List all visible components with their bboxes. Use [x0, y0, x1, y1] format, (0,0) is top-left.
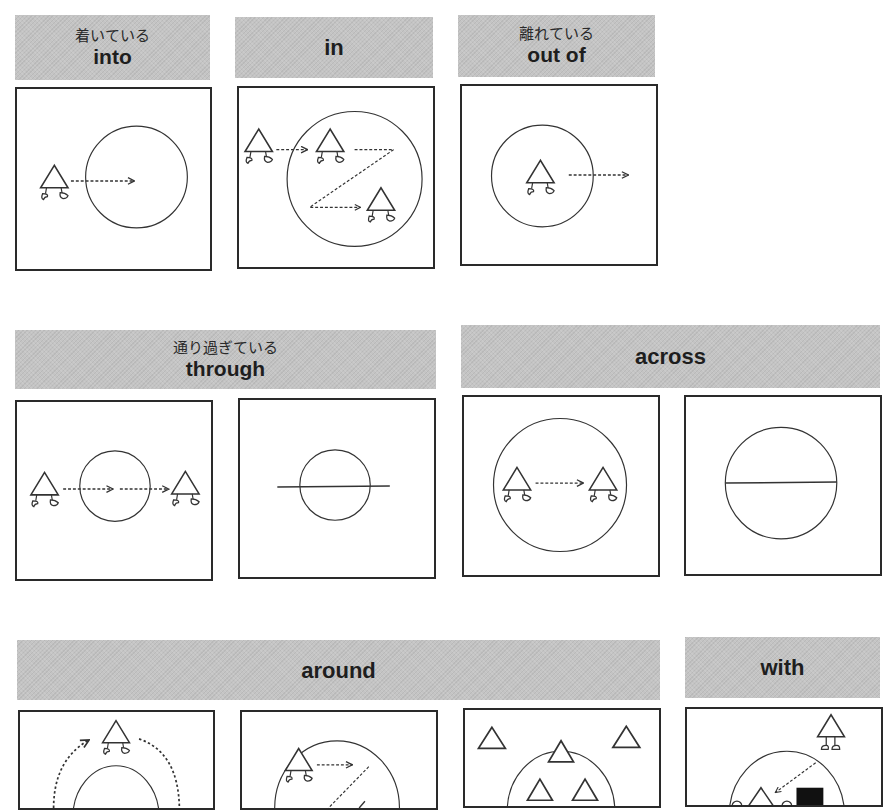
dashed-path-icon — [328, 767, 368, 808]
walker-icon — [818, 715, 845, 750]
panel-around-2 — [240, 710, 438, 810]
walker-icon — [245, 129, 272, 163]
header-with-en: with — [761, 656, 805, 679]
triangle-icon — [549, 741, 574, 762]
header-across-en: across — [635, 345, 706, 368]
circle-region-icon — [73, 766, 159, 808]
header-out-of: 離れている out of — [458, 15, 655, 77]
header-across: across — [461, 325, 880, 388]
walker-icon — [527, 160, 554, 194]
panel-into — [15, 87, 212, 271]
across-illustration-2 — [686, 397, 880, 574]
header-around-en: around — [301, 659, 376, 682]
with-illustration — [687, 709, 881, 805]
dashed-path-icon — [139, 739, 179, 808]
in-illustration — [239, 88, 433, 267]
around-illustration-2 — [242, 712, 436, 808]
walker-icon — [41, 165, 68, 199]
walker-icon — [367, 188, 394, 222]
triangle-icon — [478, 727, 505, 748]
header-into: 着いている into — [15, 15, 210, 80]
around-illustration-1 — [20, 712, 213, 808]
panel-across-2 — [684, 395, 882, 576]
panel-through-2 — [238, 398, 436, 579]
panel-across-1 — [462, 395, 660, 577]
filled-square-icon — [796, 788, 823, 805]
dashed-arrow-icon — [54, 740, 90, 808]
around-illustration-3 — [465, 710, 659, 806]
header-through-en: through — [186, 357, 265, 380]
header-through-ja: 通り過ぎている — [173, 340, 278, 357]
triangle-icon — [573, 779, 598, 800]
circle-region-icon — [275, 741, 400, 808]
through-illustration-1 — [17, 402, 211, 579]
triangle-icon — [527, 779, 552, 800]
through-illustration-2 — [240, 400, 434, 577]
into-illustration — [17, 89, 210, 269]
header-with: with — [685, 637, 880, 698]
walker-icon — [31, 472, 58, 506]
header-in: in — [235, 17, 433, 78]
header-through: 通り過ぎている through — [15, 330, 436, 389]
panel-in — [237, 86, 435, 269]
panel-out-of — [460, 84, 658, 266]
circle-region-icon — [287, 111, 422, 246]
hand-icon — [732, 801, 742, 805]
header-out-of-ja: 離れている — [519, 26, 594, 43]
walker-icon — [285, 748, 312, 782]
line-icon — [277, 486, 389, 487]
header-into-en: into — [93, 45, 131, 68]
header-around: around — [17, 640, 660, 700]
triangle-icon — [613, 726, 640, 747]
across-illustration-1 — [464, 397, 658, 575]
triangle-icon — [747, 788, 776, 805]
walker-icon — [589, 467, 616, 501]
panel-around-3 — [463, 708, 661, 808]
walker-icon — [503, 467, 530, 501]
walker-icon — [172, 471, 199, 505]
header-out-of-en: out of — [527, 43, 585, 66]
out-of-illustration — [462, 86, 656, 264]
arrow-tip-icon — [359, 801, 365, 808]
walker-icon — [103, 721, 130, 755]
header-into-ja: 着いている — [75, 28, 150, 45]
panel-around-1 — [18, 710, 215, 810]
circle-region-icon — [86, 126, 188, 228]
circle-region-icon — [80, 451, 150, 521]
hand-icon — [782, 801, 792, 805]
line-icon — [725, 482, 836, 483]
header-in-en: in — [324, 36, 344, 59]
circle-region-icon — [300, 450, 370, 520]
circle-region-icon — [729, 751, 844, 805]
panel-through-1 — [15, 400, 213, 581]
walker-icon — [316, 129, 343, 163]
panel-with — [685, 707, 883, 807]
